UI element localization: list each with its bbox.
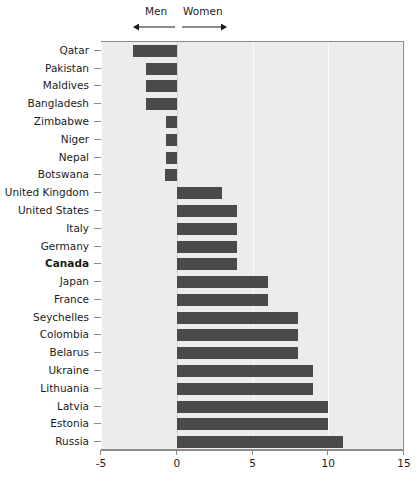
y-axis-label-maldives: Maldives	[43, 79, 89, 91]
y-axis-label-belarus: Belarus	[50, 346, 89, 358]
y-axis-label-japan: Japan	[60, 275, 89, 287]
men-direction-label: Men	[145, 5, 167, 17]
y-axis-label-latvia: Latvia	[57, 400, 89, 412]
x-axis-label--5: -5	[81, 457, 121, 469]
bar	[133, 45, 177, 57]
y-axis-tick	[94, 246, 101, 247]
x-axis-tick-15	[403, 450, 404, 455]
y-axis-labels: QatarPakistanMaldivesBangladeshZimbabweN…	[0, 41, 101, 450]
y-axis-tick	[94, 406, 101, 407]
bar	[177, 383, 313, 395]
bar	[177, 241, 238, 253]
y-axis-label-estonia: Estonia	[50, 417, 89, 429]
bar	[165, 169, 177, 181]
bar	[166, 116, 177, 128]
y-axis-tick	[94, 423, 101, 424]
y-axis-tick	[94, 317, 101, 318]
bar	[177, 329, 298, 341]
y-axis-label-zimbabwe: Zimbabwe	[34, 115, 89, 127]
y-axis-tick	[94, 370, 101, 371]
y-axis-label-niger: Niger	[61, 133, 89, 145]
x-axis-tick-10	[327, 450, 328, 455]
bar	[177, 312, 298, 324]
y-axis-label-russia: Russia	[55, 435, 89, 447]
y-axis-tick	[94, 85, 101, 86]
y-axis-tick	[94, 121, 101, 122]
y-axis-label-france: France	[54, 293, 89, 305]
y-axis-tick	[94, 50, 101, 51]
bar	[177, 205, 238, 217]
x-axis-tick-0	[176, 450, 177, 455]
y-axis-label-botswana: Botswana	[38, 168, 89, 180]
bar	[177, 258, 238, 270]
x-axis-tick-5	[252, 450, 253, 455]
y-axis-label-qatar: Qatar	[59, 44, 89, 56]
y-axis-label-seychelles: Seychelles	[33, 311, 89, 323]
y-axis-tick	[94, 334, 101, 335]
bar	[177, 276, 268, 288]
bar	[177, 401, 329, 413]
y-axis-tick	[94, 157, 101, 158]
y-axis-label-nepal: Nepal	[59, 151, 89, 163]
bar	[166, 152, 177, 164]
y-axis-tick	[94, 68, 101, 69]
y-axis-tick	[94, 139, 101, 140]
y-axis-label-italy: Italy	[66, 222, 89, 234]
y-axis-tick	[94, 299, 101, 300]
y-axis-label-lithuania: Lithuania	[40, 382, 89, 394]
y-axis-label-united-states: United States	[18, 204, 89, 216]
y-axis-tick	[94, 174, 101, 175]
y-axis-label-germany: Germany	[41, 240, 89, 252]
x-axis-label-10: 10	[308, 457, 348, 469]
bar	[177, 187, 222, 199]
y-axis-label-bangladesh: Bangladesh	[27, 97, 89, 109]
y-axis-tick	[94, 352, 101, 353]
direction-arrows	[0, 18, 418, 36]
y-axis-label-canada: Canada	[45, 257, 89, 269]
bar	[166, 134, 177, 146]
plot-area	[101, 41, 404, 450]
bar	[177, 418, 329, 430]
y-axis-tick	[94, 263, 101, 264]
y-axis-tick	[94, 228, 101, 229]
gridline--5	[101, 42, 102, 449]
bar	[146, 63, 176, 75]
x-axis-tick--5	[100, 450, 101, 455]
x-axis-label-15: 15	[384, 457, 418, 469]
gridline-10	[328, 42, 329, 449]
bar	[177, 223, 238, 235]
women-direction-label: Women	[183, 5, 223, 17]
y-axis-tick	[94, 210, 101, 211]
y-axis-label-united-kingdom: United Kingdom	[5, 186, 89, 198]
y-axis-tick	[94, 281, 101, 282]
direction-legend: Men Women	[0, 0, 418, 40]
gridline-15	[404, 42, 405, 449]
y-axis-tick	[94, 388, 101, 389]
bar	[146, 98, 176, 110]
x-axis-label-0: 0	[157, 457, 197, 469]
y-axis-label-pakistan: Pakistan	[45, 62, 89, 74]
bar	[177, 436, 344, 448]
bar	[146, 80, 176, 92]
y-axis-tick	[94, 441, 101, 442]
life-expectancy-gap-chart: Men Women QatarPakistanMaldivesBanglades…	[0, 0, 418, 482]
y-axis-tick	[94, 103, 101, 104]
bar	[177, 347, 298, 359]
bar	[177, 294, 268, 306]
x-axis-label-5: 5	[233, 457, 273, 469]
y-axis-label-colombia: Colombia	[40, 328, 89, 340]
bar	[177, 365, 313, 377]
y-axis-tick	[94, 192, 101, 193]
y-axis-label-ukraine: Ukraine	[48, 364, 89, 376]
x-axis-line	[101, 450, 404, 451]
